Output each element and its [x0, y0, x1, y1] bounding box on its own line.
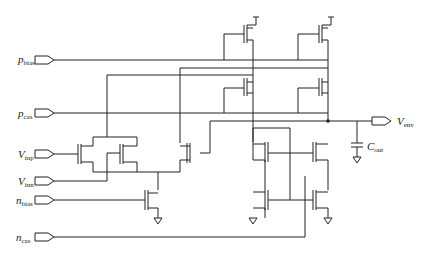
input-port-pbias: pbias [17, 53, 54, 67]
input-port-vinp: Vinp [18, 148, 54, 162]
output-port-venv: Venv [372, 115, 414, 129]
input-port-ncas: ncas [16, 231, 54, 245]
pmos-cas-left [224, 78, 253, 113]
pmos-cas-right [298, 78, 328, 113]
svg-text:Vinp: Vinp [18, 148, 34, 162]
svg-text:nbias: nbias [16, 194, 33, 208]
nmos-lower-br [313, 190, 332, 224]
svg-text:pbias: pbias [17, 53, 35, 67]
nmos-diff-right [120, 144, 137, 164]
wires [54, 60, 372, 237]
svg-text:Venv: Venv [397, 115, 414, 129]
svg-text:Vinn: Vinn [18, 175, 34, 189]
input-port-vinn: Vinn [18, 175, 54, 189]
svg-text:ncas: ncas [16, 231, 31, 245]
svg-text:pcas: pcas [17, 107, 33, 121]
nmos-diff-left [78, 144, 93, 164]
nmos-lower-tr [305, 142, 328, 190]
output-node [326, 119, 330, 123]
capacitor-cout: Cout [351, 121, 383, 163]
nmos-tail [145, 190, 162, 224]
input-port-nbias: nbias [16, 194, 54, 208]
input-port-pcas: pcas [17, 107, 54, 121]
svg-text:Cout: Cout [367, 140, 383, 154]
nmos-lower-bl [249, 190, 313, 224]
pmos-top-right [298, 17, 334, 121]
nmos-lower-tl [253, 128, 305, 200]
circuit-schematic: pbias pcas Vinp Vinn nbias ncas [0, 0, 425, 257]
